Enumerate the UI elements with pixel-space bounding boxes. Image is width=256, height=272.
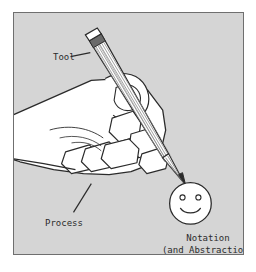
smiley-eye-left bbox=[180, 195, 185, 200]
label-notation: Notation bbox=[153, 232, 244, 244]
smiley-eye-right bbox=[196, 195, 201, 200]
label-tool: Tool bbox=[53, 52, 75, 63]
label-notation-group: Notation (and Abstraction) bbox=[153, 232, 244, 255]
figure-panel: Tool Process Notation (and Abstraction) bbox=[13, 12, 244, 255]
smiley-face-icon bbox=[170, 183, 212, 225]
process-leader-line bbox=[73, 184, 91, 213]
illustration-page: Tool Process Notation (and Abstraction) bbox=[0, 0, 256, 272]
smiley-head bbox=[170, 183, 212, 225]
label-abstraction: (and Abstraction) bbox=[153, 244, 244, 255]
label-process: Process bbox=[45, 218, 83, 229]
